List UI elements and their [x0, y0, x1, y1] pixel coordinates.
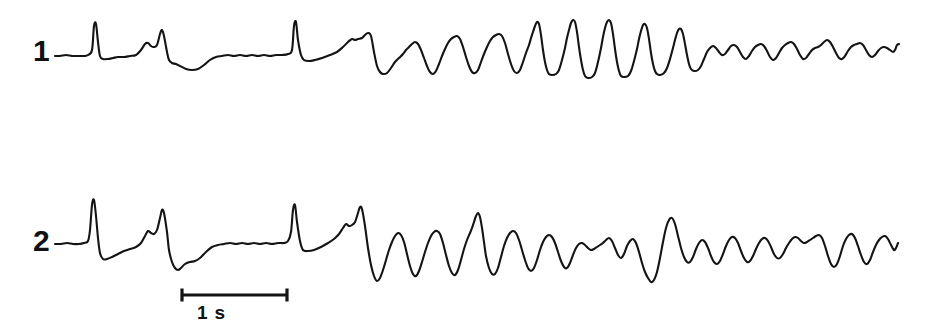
scalebar-unit: s — [215, 302, 226, 323]
waveform-canvas — [0, 0, 928, 331]
waveform-trace-2 — [55, 199, 898, 282]
scalebar-caption: 1s — [197, 303, 225, 322]
scalebar-value: 1 — [197, 302, 208, 323]
recording-figure: 1 2 1s — [0, 0, 928, 331]
time-scalebar — [181, 289, 288, 302]
waveform-trace-1 — [55, 20, 899, 78]
